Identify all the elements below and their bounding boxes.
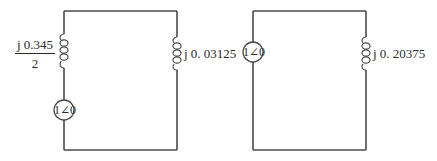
circuit-1-left-inductor-label: j 0.345 2 [15, 38, 55, 70]
circuit-1-source-label: 1∠0 [54, 104, 74, 116]
circuit-2-right-inductor-label: j 0. 20375 [373, 47, 425, 60]
left-inductor-numerator: j 0.345 [15, 38, 55, 54]
circuit-2 [243, 11, 370, 150]
circuit-1 [54, 11, 181, 150]
circuit-1-left-inductor-icon [60, 34, 68, 68]
left-inductor-denominator: 2 [15, 54, 55, 70]
circuit-1-right-inductor-label: j 0. 03125 [184, 47, 236, 60]
circuit-diagram [0, 0, 437, 161]
circuit-2-right-inductor-icon [362, 37, 370, 70]
circuit-1-right-inductor-icon [173, 37, 181, 70]
circuit-2-source-label: 1∠0 [243, 46, 263, 58]
